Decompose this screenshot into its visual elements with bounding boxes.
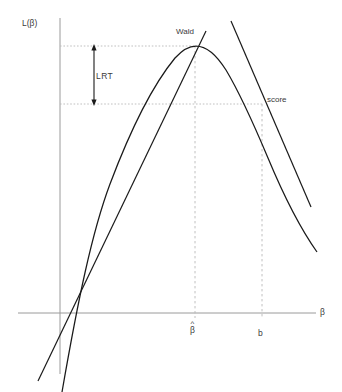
hat-accent: ^	[190, 320, 195, 328]
secant-line	[38, 31, 206, 381]
score-annotation-label: score	[267, 96, 287, 104]
plot-canvas	[0, 0, 342, 392]
tangent-line-score	[231, 21, 311, 207]
beta-hat-group: ^ β	[190, 326, 195, 335]
lrt-arrowhead-up	[91, 44, 96, 51]
lrt-annotation-label: LRT	[96, 72, 113, 81]
x-axis-label: β	[320, 308, 325, 317]
likelihood-test-diagram: L(β) Wald LRT score β ^ β b	[0, 0, 342, 392]
x-tick-label-null: b	[258, 329, 263, 338]
wald-annotation-label: Wald	[176, 28, 194, 36]
y-axis-label: L(β)	[22, 19, 37, 28]
x-tick-label-mle: ^ β	[190, 326, 195, 335]
lrt-arrowhead-down	[91, 100, 96, 107]
